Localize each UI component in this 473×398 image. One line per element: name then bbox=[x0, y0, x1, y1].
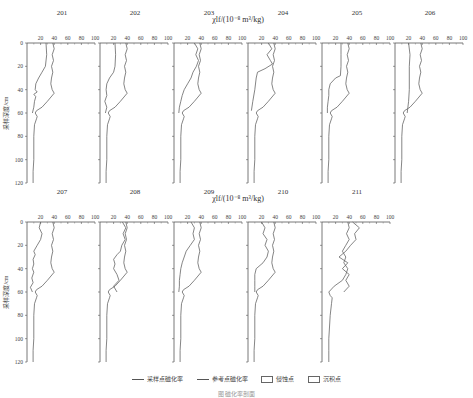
x-tick-label: 80 bbox=[300, 214, 306, 220]
x-tick-label: 60 bbox=[212, 214, 218, 220]
x-tick-label: 20 bbox=[185, 214, 191, 220]
y-tick-label: 60 bbox=[18, 289, 24, 295]
reference-line-210 bbox=[254, 222, 275, 362]
y-axis-label: 采样深度/cm bbox=[2, 96, 10, 129]
sample-line-202 bbox=[105, 43, 116, 113]
panel-title-205: 205 bbox=[352, 9, 363, 17]
reference-line-206 bbox=[401, 43, 422, 183]
y-tick-label: 80 bbox=[18, 312, 24, 318]
x-tick-label: 40 bbox=[272, 214, 278, 220]
y-tick-label: 0 bbox=[20, 219, 23, 225]
sample-line-210 bbox=[255, 222, 269, 292]
x-tick-label: 60 bbox=[138, 35, 144, 41]
sample-line-201 bbox=[32, 43, 46, 113]
y-tick-label: 100 bbox=[15, 157, 24, 163]
x-axis-label: χlf/(10⁻⁸ m³/kg) bbox=[211, 15, 264, 24]
x-tick-label: 60 bbox=[360, 35, 366, 41]
reference-line-201 bbox=[33, 43, 54, 183]
x-tick-label: 20 bbox=[333, 214, 339, 220]
legend-item-erosion: 侵蚀点 bbox=[261, 374, 294, 383]
x-tick-label: 100 bbox=[238, 35, 247, 41]
x-tick-label: 100 bbox=[459, 35, 468, 41]
sample-line-209 bbox=[179, 222, 195, 292]
figure-canvas: χlf/(10⁻⁸ m³/kg)χlf/(10⁻⁸ m³/kg)20120406… bbox=[0, 0, 473, 372]
legend-item-reference: 参考点磁化率 bbox=[197, 374, 248, 383]
x-tick-label: 40 bbox=[346, 214, 352, 220]
reference-line-swatch bbox=[197, 379, 209, 380]
panel-title-204: 204 bbox=[278, 9, 289, 17]
sample-line-207 bbox=[30, 222, 42, 292]
x-tick-label: 20 bbox=[111, 214, 117, 220]
x-tick-label: 80 bbox=[79, 35, 85, 41]
x-tick-label: 80 bbox=[152, 214, 158, 220]
reference-line-207 bbox=[33, 222, 54, 362]
x-tick-label: 60 bbox=[65, 35, 71, 41]
x-tick-label: 20 bbox=[406, 35, 412, 41]
x-tick-label: 40 bbox=[198, 214, 204, 220]
legend-item-deposition: 沉积点 bbox=[308, 374, 341, 383]
panel-title-206: 206 bbox=[425, 9, 436, 17]
reference-line-202 bbox=[106, 43, 127, 183]
sample-line-swatch bbox=[132, 379, 144, 380]
x-tick-label: 100 bbox=[91, 214, 100, 220]
deposition-box-swatch bbox=[308, 376, 320, 383]
x-tick-label: 100 bbox=[164, 35, 173, 41]
x-tick-label: 60 bbox=[360, 214, 366, 220]
y-tick-label: 80 bbox=[18, 133, 24, 139]
x-tick-label: 40 bbox=[124, 35, 130, 41]
panel-title-211: 211 bbox=[352, 188, 363, 196]
x-tick-label: 60 bbox=[65, 214, 71, 220]
x-tick-label: 100 bbox=[312, 214, 321, 220]
panel-title-203: 203 bbox=[204, 9, 215, 17]
x-tick-label: 60 bbox=[138, 214, 144, 220]
x-tick-label: 100 bbox=[386, 35, 395, 41]
x-tick-label: 100 bbox=[312, 35, 321, 41]
y-tick-label: 40 bbox=[18, 266, 24, 272]
x-tick-label: 60 bbox=[212, 35, 218, 41]
x-tick-label: 100 bbox=[238, 214, 247, 220]
x-tick-label: 80 bbox=[226, 35, 232, 41]
panel-title-208: 208 bbox=[130, 188, 141, 196]
legend-item-sample: 采样点磁化率 bbox=[132, 374, 183, 383]
y-tick-label: 20 bbox=[18, 242, 24, 248]
x-tick-label: 40 bbox=[124, 214, 130, 220]
x-tick-label: 100 bbox=[91, 35, 100, 41]
reference-line-211 bbox=[329, 222, 349, 362]
x-tick-label: 40 bbox=[198, 35, 204, 41]
y-tick-label: 120 bbox=[15, 180, 24, 186]
x-tick-label: 40 bbox=[51, 214, 57, 220]
sample-line-205 bbox=[327, 43, 341, 113]
x-tick-label: 40 bbox=[346, 35, 352, 41]
x-tick-label: 100 bbox=[386, 214, 395, 220]
sample-line-211 bbox=[339, 222, 359, 292]
x-tick-label: 40 bbox=[51, 35, 57, 41]
x-tick-label: 80 bbox=[447, 35, 453, 41]
y-tick-label: 20 bbox=[18, 63, 24, 69]
reference-line-205 bbox=[328, 43, 349, 183]
x-tick-label: 20 bbox=[38, 214, 44, 220]
x-tick-label: 80 bbox=[374, 35, 380, 41]
y-axis-label: 采样深度/cm bbox=[2, 275, 10, 308]
x-tick-label: 80 bbox=[300, 35, 306, 41]
panel-title-210: 210 bbox=[278, 188, 289, 196]
y-tick-label: 60 bbox=[18, 110, 24, 116]
x-tick-label: 20 bbox=[259, 214, 265, 220]
sample-line-203 bbox=[179, 43, 199, 113]
x-tick-label: 60 bbox=[286, 35, 292, 41]
panel-title-201: 201 bbox=[57, 9, 68, 17]
x-axis-label: χlf/(10⁻⁸ m³/kg) bbox=[211, 194, 264, 203]
x-tick-label: 80 bbox=[79, 214, 85, 220]
x-tick-label: 100 bbox=[164, 214, 173, 220]
x-tick-label: 40 bbox=[419, 35, 425, 41]
panel-title-202: 202 bbox=[130, 9, 141, 17]
x-tick-label: 80 bbox=[152, 35, 158, 41]
panel-title-207: 207 bbox=[57, 188, 68, 196]
legend: 采样点磁化率 参考点磁化率 侵蚀点 沉积点 bbox=[0, 374, 473, 383]
x-tick-label: 80 bbox=[374, 214, 380, 220]
erosion-box-swatch bbox=[261, 376, 273, 383]
x-tick-label: 80 bbox=[226, 214, 232, 220]
y-tick-label: 40 bbox=[18, 87, 24, 93]
x-tick-label: 20 bbox=[259, 35, 265, 41]
x-tick-label: 60 bbox=[433, 35, 439, 41]
y-tick-label: 120 bbox=[15, 359, 24, 365]
